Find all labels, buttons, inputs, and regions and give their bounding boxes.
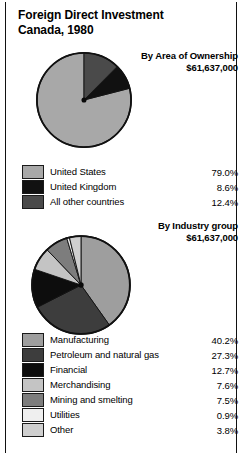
legend-label: Utilities [50,409,80,420]
legend-value: 3.8% [217,424,238,435]
legend-row: Other3.8% [22,422,238,437]
legend-row: Utilities0.9% [22,407,238,422]
legend-label: Merchandising [50,379,110,390]
legend-row: Merchandising7.6% [22,377,238,392]
legend-row: All other countries12.4% [22,194,238,209]
pie-center-dot [81,97,86,102]
legend-value: 8.6% [217,181,238,192]
legend-area-of-ownership: United States79.0%United Kingdom8.6%All … [22,164,238,209]
legend-label: All other countries [50,196,124,207]
legend-label: United Kingdom [50,181,116,192]
section-heading-industry-label: By Industry group [88,220,238,232]
chart-frame: Foreign Direct Investment Canada, 1980 B… [5,2,237,453]
legend-value: 12.4% [212,196,238,207]
legend-value: 7.5% [217,394,238,405]
legend-value: 7.6% [217,379,238,390]
legend-swatch [22,348,44,362]
legend-row: United States79.0% [22,164,238,179]
legend-value: 79.0% [212,166,238,177]
legend-label: United States [50,166,106,177]
legend-swatch [22,393,44,407]
legend-swatch [22,333,44,347]
legend-label: Other [50,424,73,435]
pie-chart-industry-group [29,233,133,337]
title-line-2: Canada, 1980 [18,23,218,38]
legend-label: Petroleum and natural gas [50,349,159,360]
legend-value: 0.9% [217,409,238,420]
legend-row: Petroleum and natural gas27.3% [22,347,238,362]
legend-label: Mining and smelting [50,394,133,405]
legend-value: 12.7% [212,364,238,375]
legend-label: Financial [50,364,87,375]
pie-center-dot [78,282,83,287]
legend-label: Manufacturing [50,334,109,345]
legend-swatch [22,180,44,194]
legend-swatch [22,195,44,209]
page-title: Foreign Direct Investment Canada, 1980 [18,8,218,37]
pie-chart-area-of-ownership [35,51,133,149]
legend-swatch [22,363,44,377]
legend-swatch [22,408,44,422]
legend-swatch [22,165,44,179]
legend-value: 40.2% [212,334,238,345]
legend-row: Manufacturing40.2% [22,332,238,347]
legend-swatch [22,423,44,437]
legend-row: Financial12.7% [22,362,238,377]
title-line-1: Foreign Direct Investment [18,8,218,23]
legend-swatch [22,378,44,392]
legend-row: Mining and smelting7.5% [22,392,238,407]
legend-industry-group: Manufacturing40.2%Petroleum and natural … [22,332,238,437]
legend-row: United Kingdom8.6% [22,179,238,194]
legend-value: 27.3% [212,349,238,360]
